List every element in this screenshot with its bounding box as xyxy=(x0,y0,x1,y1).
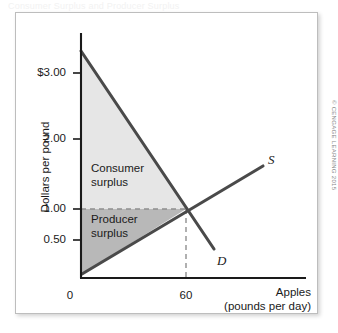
y-tick-label-3: $3.00 xyxy=(18,66,66,78)
producer-surplus-label: Producer surplus xyxy=(91,213,138,240)
y-axis-title: Dollars per pound xyxy=(39,97,51,237)
plot-area: Dollars per pound $3.00 2.00 1.00 0.50 0… xyxy=(16,13,319,315)
figure-page: Consumer Surplus and Producer Surplus xyxy=(0,0,338,333)
y-tick-label-2: 2.00 xyxy=(18,132,66,144)
x-axis-title-sub: (pounds per day) xyxy=(181,299,311,313)
consumer-surplus-label-line2: surplus xyxy=(91,176,144,190)
demand-curve-label: D xyxy=(217,253,226,269)
y-tick-label-0-5: 0.50 xyxy=(18,233,66,245)
supply-curve-label: S xyxy=(268,152,275,168)
consumer-surplus-label-line1: Consumer xyxy=(91,162,144,176)
producer-surplus-label-line1: Producer xyxy=(91,213,138,227)
copyright-notice: © CENGAGE LEARNING 2015 xyxy=(331,100,337,196)
x-tick-label-0: 0 xyxy=(60,289,80,301)
producer-surplus-label-line2: surplus xyxy=(91,227,138,241)
y-tick-label-1: 1.00 xyxy=(18,202,66,214)
consumer-surplus-label: Consumer surplus xyxy=(91,162,144,189)
x-axis-title: Apples (pounds per day) xyxy=(181,285,311,313)
figure-card: Dollars per pound $3.00 2.00 1.00 0.50 0… xyxy=(15,12,318,314)
x-axis-title-main: Apples xyxy=(181,285,311,299)
figure-caption: Consumer Surplus and Producer Surplus xyxy=(8,0,268,12)
